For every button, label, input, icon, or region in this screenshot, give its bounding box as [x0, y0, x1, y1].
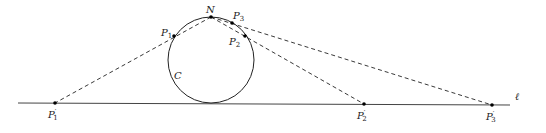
point-p3-prime — [490, 103, 494, 107]
point-p1 — [172, 34, 176, 38]
label-p1: P1 — [160, 27, 172, 40]
ray-p2 — [211, 17, 364, 104]
ray-p1 — [55, 17, 211, 103]
ray-p3 — [211, 17, 492, 105]
point-n — [209, 15, 213, 19]
label-p2-prime: P′2 — [356, 109, 367, 123]
point-p2 — [243, 34, 247, 38]
label-l: ℓ — [515, 91, 519, 102]
label-p2: P2 — [228, 36, 240, 49]
projection-rays — [55, 17, 492, 105]
diagram-canvas: N P1 P2 P3 C P′1 P′2 P′3 ℓ — [0, 0, 546, 133]
label-p3-prime: P′3 — [485, 110, 496, 124]
point-p3 — [230, 21, 234, 25]
point-p2-prime — [362, 102, 366, 106]
label-n: N — [205, 4, 216, 15]
points — [53, 15, 494, 107]
circle-c — [168, 17, 254, 103]
point-p1-prime — [53, 101, 57, 105]
label-p1-prime: P′1 — [47, 108, 58, 122]
label-c: C — [174, 70, 182, 81]
line-l — [18, 103, 510, 105]
label-p3: P3 — [232, 10, 244, 23]
